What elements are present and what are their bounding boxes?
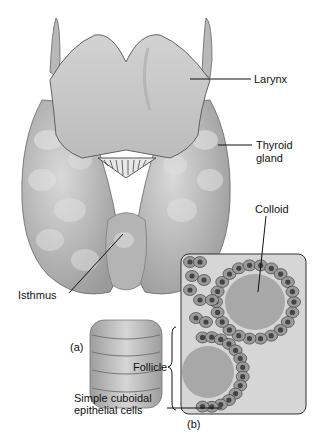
label-follicle: Follicle (133, 361, 167, 373)
cell-nucleus (226, 341, 231, 346)
cell-nucleus (247, 336, 252, 341)
cell-nucleus (240, 374, 245, 379)
cell-nucleus (215, 310, 220, 315)
label-larynx: Larynx (254, 73, 287, 85)
cell-nucleus (227, 271, 232, 276)
cell-nucleus (218, 402, 223, 407)
cell-nucleus (200, 335, 205, 340)
cell-nucleus (201, 277, 206, 282)
colloid-region-lower (182, 346, 234, 398)
label-panel-b: (b) (187, 418, 200, 430)
label-colloid: Colloid (255, 203, 289, 215)
cell-nucleus (187, 259, 192, 264)
label-thyroid-line2: gland (256, 152, 283, 164)
follicle-brace (168, 327, 176, 410)
cell-nucleus (197, 297, 202, 302)
label-thyroid-line1: Thyroid (256, 139, 293, 151)
cell-nucleus (220, 319, 225, 324)
cell-nucleus (258, 336, 263, 341)
cell-nucleus (278, 327, 283, 332)
cell-nucleus (209, 404, 214, 409)
cell-nucleus (209, 335, 214, 340)
cell-nucleus (197, 259, 202, 264)
cell-nucleus (269, 266, 274, 271)
cell-nucleus (203, 319, 208, 324)
cell-nucleus (209, 297, 214, 302)
cell-nucleus (278, 271, 283, 276)
cell-nucleus (290, 289, 295, 294)
cell-nucleus (236, 333, 241, 338)
cell-nucleus (226, 397, 231, 402)
label-panel-a: (a) (70, 341, 83, 353)
cell-nucleus (291, 299, 296, 304)
cell-nucleus (233, 391, 238, 396)
cell-nucleus (187, 287, 192, 292)
cell-nucleus (233, 348, 238, 353)
larynx-cartilage (50, 35, 210, 158)
diagram-illustration (0, 0, 318, 444)
thyroid-isthmus (106, 213, 147, 291)
cell-nucleus (238, 383, 243, 388)
cell-nucleus (285, 279, 290, 284)
cell-nucleus (227, 327, 232, 332)
cell-nucleus (220, 279, 225, 284)
cell-nucleus (290, 310, 295, 315)
follicle-histology-panel (181, 254, 306, 414)
label-isthmus: Isthmus (18, 289, 57, 301)
cell-nucleus (247, 263, 252, 268)
label-cells-line2: epithelial cells (74, 404, 142, 416)
colloid-region (225, 274, 285, 330)
label-cells-line1: Simple cuboidal (74, 392, 152, 404)
cell-nucleus (236, 266, 241, 271)
thyroid-diagram: Larynx Thyroid gland Colloid Isthmus (a)… (0, 0, 318, 444)
cell-nucleus (215, 289, 220, 294)
cell-nucleus (218, 337, 223, 342)
cell-nucleus (238, 356, 243, 361)
cell-nucleus (285, 319, 290, 324)
cell-nucleus (189, 273, 194, 278)
cell-nucleus (240, 365, 245, 370)
cell-nucleus (193, 315, 198, 320)
cell-nucleus (269, 333, 274, 338)
larynx-superior-horn-right (202, 18, 212, 78)
